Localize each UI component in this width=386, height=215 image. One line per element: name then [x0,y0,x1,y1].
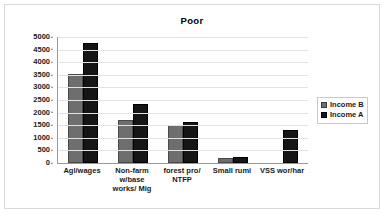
y-axis-tick-mark [51,49,53,50]
plot-area-wrapper: 5000450040003500300025002000150010005000… [23,37,323,177]
x-axis-labels: Agl/wagesNon-farm w/base works/ Migfores… [57,166,307,193]
y-axis-tick-label: 1000 [33,134,50,142]
y-axis: 5000450040003500300025002000150010005000 [23,37,53,163]
y-axis-tick-mark [51,137,53,138]
y-axis-tick-label: 2500 [33,96,50,104]
gridline [58,113,308,114]
bar-income-a[interactable] [283,130,298,163]
gridline [58,125,308,126]
y-axis-tick-mark [51,74,53,75]
bar-income-a[interactable] [233,157,248,163]
x-axis-category-label: Agl/wages [57,166,107,193]
x-axis-category-label: Small rumi [207,166,257,193]
y-axis-tick-label: 5000 [33,33,50,41]
y-axis-tick-label: 3500 [33,71,50,79]
y-axis-tick-mark [51,87,53,88]
y-axis-tick-label: 2000 [33,109,50,117]
gridline [58,75,308,76]
legend-label-income-a: Income A [330,110,363,120]
gridline [58,62,308,63]
chart-container: Poor 50004500400035003000250020001500100… [4,4,380,209]
y-axis-tick-label: 4500 [33,46,50,54]
legend-label-income-b: Income B [330,100,364,110]
legend-item-income-b[interactable]: Income B [321,100,364,110]
y-axis-tick-mark [51,37,53,38]
chart-legend: Income B Income A [317,97,368,124]
bar-income-a[interactable] [183,122,198,163]
y-axis-tick-mark [51,62,53,63]
y-axis-tick-mark [51,150,53,151]
y-axis-tick-label: 3000 [33,84,50,92]
bar-income-b[interactable] [218,158,233,163]
y-axis-tick-label: 4000 [33,58,50,66]
x-axis-category-label: forest pro/ NTFP [157,166,207,193]
bar-income-b[interactable] [118,120,133,163]
gridline [58,50,308,51]
gridline [58,87,308,88]
gridline [58,138,308,139]
bar-income-b[interactable] [168,125,183,163]
y-axis-tick-label: 500 [37,147,50,155]
y-axis-tick-mark [51,112,53,113]
chart-title: Poor [5,15,379,26]
plot-area [57,37,308,164]
x-axis-category-label: VSS wor/har [257,166,307,193]
y-axis-tick-mark [51,163,53,164]
gridline [58,150,308,151]
legend-swatch-income-b-icon [321,102,327,108]
legend-item-income-a[interactable]: Income A [321,110,364,120]
gridline [58,37,308,38]
x-axis-category-label: Non-farm w/base works/ Mig [107,166,157,193]
legend-swatch-income-a-icon [321,112,327,118]
y-axis-tick-label: 1500 [33,121,50,129]
y-axis-tick-mark [51,125,53,126]
y-axis-tick-label: 0 [46,159,50,167]
gridline [58,100,308,101]
y-axis-tick-mark [51,100,53,101]
